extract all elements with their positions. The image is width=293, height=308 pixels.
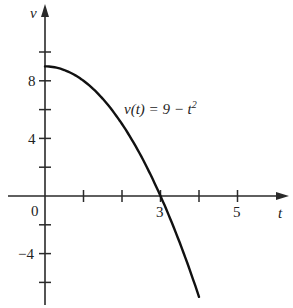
- x-axis-arrow-icon: [276, 192, 289, 200]
- curve-annotation: v(t) = 9 − t2: [124, 99, 197, 118]
- y-tick-label-neg4: −4: [18, 246, 34, 262]
- y-axis-label: v: [30, 5, 37, 21]
- origin-label: 0: [31, 203, 39, 219]
- x-tick-label-5: 5: [233, 204, 241, 220]
- y-tick-label-8: 8: [28, 73, 36, 89]
- x-tick-label-3: 3: [156, 204, 164, 220]
- velocity-chart: v t 0 3 5 8 4 −4 v(t) = 9 − t2: [0, 0, 293, 308]
- x-axis-label: t: [278, 205, 283, 221]
- y-axis-arrow-icon: [41, 4, 49, 17]
- y-tick-label-4: 4: [28, 131, 36, 147]
